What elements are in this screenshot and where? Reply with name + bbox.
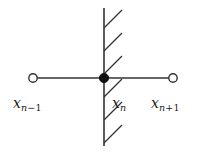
filled-node-center bbox=[99, 73, 108, 82]
open-node-left bbox=[29, 74, 37, 82]
node-label-right-sub-num: 1 bbox=[173, 102, 179, 113]
hatch-mark bbox=[104, 125, 122, 143]
node-label-left-subscript: n−1 bbox=[21, 102, 42, 113]
node-label-center-subscript: n bbox=[120, 102, 126, 113]
hatch-mark bbox=[104, 10, 122, 28]
node-label-left: xn−1 bbox=[13, 96, 42, 110]
diagram-graphics bbox=[0, 0, 204, 156]
diagram-canvas: xn−1 xn xn+1 bbox=[0, 0, 204, 156]
node-label-left-sub-num: 1 bbox=[35, 102, 41, 113]
node-label-left-base: x bbox=[13, 95, 21, 111]
hatch-mark bbox=[104, 33, 122, 51]
node-label-center: xn bbox=[112, 96, 126, 110]
hatch-mark bbox=[104, 56, 122, 74]
open-node-right bbox=[169, 74, 177, 82]
node-label-center-base: x bbox=[112, 95, 120, 111]
node-label-right-subscript: n+1 bbox=[159, 102, 180, 113]
node-label-right-base: x bbox=[151, 95, 159, 111]
node-label-right: xn+1 bbox=[151, 96, 180, 110]
node-label-center-sub-var: n bbox=[120, 102, 126, 113]
